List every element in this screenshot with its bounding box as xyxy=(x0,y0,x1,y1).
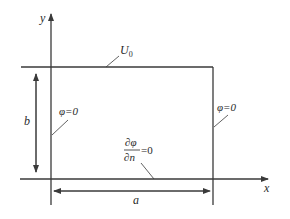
height-label: b xyxy=(24,114,30,128)
bottom-leader-line xyxy=(141,163,154,179)
right-condition-label: φ=0 xyxy=(217,101,237,113)
top-leader-line xyxy=(106,56,119,67)
bottom-numerator: ∂φ xyxy=(125,136,137,148)
right-leader-line xyxy=(214,115,228,127)
diagram-canvas: y x b a U0 φ=0 φ=0 ∂φ ∂n =0 xyxy=(0,0,290,219)
top-condition-label: U0 xyxy=(120,43,133,59)
bottom-condition-label: ∂φ ∂n =0 xyxy=(124,136,153,163)
left-condition-label: φ=0 xyxy=(59,105,79,117)
x-axis-label: x xyxy=(263,181,270,195)
left-leader-line xyxy=(52,120,68,135)
y-axis-label: y xyxy=(39,11,46,25)
bottom-rhs: =0 xyxy=(141,144,153,156)
bottom-denominator: ∂n xyxy=(124,151,135,163)
width-label: a xyxy=(133,193,139,207)
